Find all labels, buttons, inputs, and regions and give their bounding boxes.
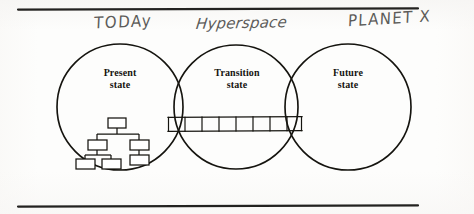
org-node-leaf-b [102,159,121,169]
venn-diagram-graphic [0,0,474,214]
org-node-root [108,118,126,128]
org-node-left-child [88,140,107,150]
org-node-leaf-c [130,155,149,165]
ladder-rail-bottom [168,131,302,132]
ladder-rail-top [168,117,302,118]
top-rule [18,8,418,9]
transition-ladder [168,117,302,132]
circle-transition-state [174,45,298,169]
circle-future-state [285,44,411,170]
circle-present-state [57,44,183,170]
rule-group [18,8,418,206]
figure-canvas: TODAy Hyperspace PLANET X Present state … [0,0,474,214]
present-state-org-chart [76,118,149,169]
bottom-rule [18,205,418,206]
org-node-leaf-a [76,159,95,169]
circles-group [57,44,411,170]
org-node-right-child [130,140,149,150]
